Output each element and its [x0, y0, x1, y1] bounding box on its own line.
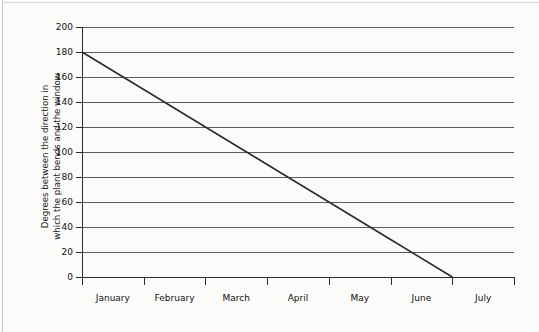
series-line-degrees-of-bend	[82, 52, 452, 277]
series-layer	[0, 0, 539, 332]
chart-page: Degrees between the direction in which t…	[0, 0, 539, 332]
line-chart-figure: Degrees between the direction in which t…	[0, 0, 539, 332]
